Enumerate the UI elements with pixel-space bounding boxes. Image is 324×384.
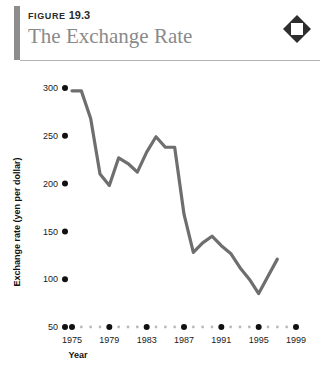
y-axis-dot [62,276,68,282]
figure-header: FIGURE 19.3 The Exchange Rate [0,0,324,62]
x-axis-major-dot [144,324,150,330]
x-axis-minor-dot [192,326,195,329]
y-axis-tick-labels: 30025020015010050 [43,83,58,332]
x-axis-major-dot [218,324,224,330]
x-tick-label: 1975 [62,335,82,345]
x-axis-minor-dot [117,326,120,329]
x-axis-minor-dot [173,326,176,329]
x-axis-minor-dot [267,326,270,329]
x-axis-minor-dot [248,326,251,329]
x-axis-minor-dot [276,326,279,329]
y-axis-title: Exchange rate (yen per dollar) [12,157,22,286]
x-axis-major-dot [69,324,75,330]
x-axis-minor-dot [99,326,102,329]
chart-area: 30025020015010050 1975197919831987199119… [0,62,324,384]
x-tick-label: 1991 [211,335,231,345]
x-axis-minor-dot [155,326,158,329]
y-tick-label: 250 [43,131,58,141]
x-tick-label: 1999 [286,335,306,345]
diamond-icon [282,14,312,44]
x-axis-major-dot [293,324,299,330]
y-axis-marker-dots [62,85,68,330]
header-accent-bar [14,6,20,60]
x-axis-major-dot [181,324,187,330]
header-divider [20,60,320,61]
x-axis-minor-dot [80,326,83,329]
x-axis-major-dot [106,324,112,330]
y-axis-dot [62,324,68,330]
figure-number-label: FIGURE 19.3 [28,9,192,22]
y-tick-label: 150 [43,227,58,237]
y-axis-dot [62,85,68,91]
x-tick-label: 1979 [99,335,119,345]
figure-number: 19.3 [69,9,90,21]
y-tick-label: 200 [43,179,58,189]
y-tick-label: 50 [48,322,58,332]
y-tick-label: 100 [43,274,58,284]
x-axis-minor-dot [285,326,288,329]
x-axis-title: Year [68,350,88,360]
figure-word: FIGURE [28,11,66,21]
x-axis-major-dot [256,324,262,330]
y-axis-dot [62,133,68,139]
x-axis-dotted-line [69,324,299,330]
x-axis-tick-labels: 1975197919831987199119951999 [62,335,306,345]
y-tick-label: 300 [43,83,58,93]
x-tick-label: 1987 [174,335,194,345]
exchange-rate-data-line [72,91,277,294]
header-text-block: FIGURE 19.3 The Exchange Rate [28,9,192,49]
x-axis-minor-dot [201,326,204,329]
x-tick-label: 1983 [137,335,157,345]
x-axis-minor-dot [239,326,242,329]
x-tick-label: 1995 [249,335,269,345]
x-axis-minor-dot [211,326,214,329]
x-axis-minor-dot [89,326,92,329]
y-axis-dot [62,228,68,234]
page-title: The Exchange Rate [28,23,192,49]
exchange-rate-line-chart: 30025020015010050 1975197919831987199119… [0,62,324,384]
x-axis-minor-dot [127,326,130,329]
x-axis-minor-dot [164,326,167,329]
x-axis-minor-dot [229,326,232,329]
y-axis-dot [62,181,68,187]
x-axis-minor-dot [136,326,139,329]
